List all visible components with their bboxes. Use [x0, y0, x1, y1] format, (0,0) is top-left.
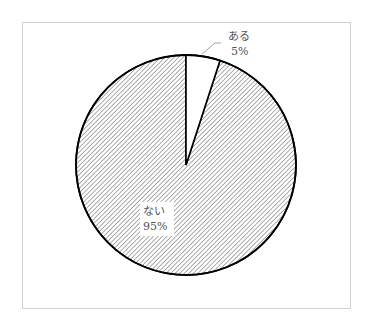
pie-chart: ある 5% ない 95%	[0, 0, 373, 332]
leader-line	[202, 43, 221, 54]
label-nai-percent: 95%	[143, 220, 167, 233]
label-aru: ある	[228, 30, 250, 43]
label-aru-percent: 5%	[231, 45, 248, 58]
label-nai: ない	[143, 205, 165, 218]
